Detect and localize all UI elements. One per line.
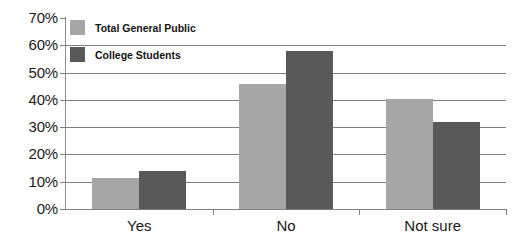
legend-color-swatch bbox=[70, 20, 85, 35]
bar bbox=[386, 99, 433, 210]
x-axis-tick-mark bbox=[359, 209, 360, 215]
bar bbox=[139, 171, 186, 209]
x-axis-tick-mark bbox=[213, 209, 214, 215]
y-axis-tick-mark bbox=[60, 209, 66, 210]
x-axis-category-label: Yes bbox=[66, 217, 213, 235]
bar bbox=[286, 51, 333, 209]
y-axis: 0%10%20%30%40%50%60%70% bbox=[0, 0, 58, 240]
bar bbox=[433, 122, 480, 209]
y-axis-tick-mark bbox=[60, 18, 66, 19]
legend-label: College Students bbox=[95, 49, 181, 61]
x-axis-line bbox=[65, 209, 506, 210]
y-axis-tick-mark bbox=[60, 100, 66, 101]
bar-chart: 0%10%20%30%40%50%60%70% YesNoNot sure To… bbox=[0, 0, 524, 240]
legend-item: Total General Public bbox=[70, 14, 290, 41]
y-axis-tick-mark bbox=[60, 127, 66, 128]
legend-color-swatch bbox=[70, 47, 85, 62]
x-axis-category-label: No bbox=[213, 217, 360, 235]
chart-legend: Total General PublicCollege Students bbox=[70, 14, 290, 68]
y-axis-tick-label: 30% bbox=[2, 119, 58, 134]
x-axis-tick-mark bbox=[506, 209, 507, 215]
y-axis-tick-label: 60% bbox=[2, 37, 58, 52]
y-axis-tick-mark bbox=[60, 154, 66, 155]
legend-label: Total General Public bbox=[95, 22, 196, 34]
bar bbox=[239, 84, 286, 210]
x-axis-category-label: Not sure bbox=[359, 217, 506, 235]
y-axis-tick-label: 70% bbox=[2, 10, 58, 25]
y-axis-tick-mark bbox=[60, 73, 66, 74]
legend-item: College Students bbox=[70, 41, 290, 68]
y-axis-tick-label: 20% bbox=[2, 146, 58, 161]
bar bbox=[92, 178, 139, 209]
y-axis-tick-mark bbox=[60, 182, 66, 183]
y-axis-tick-label: 50% bbox=[2, 65, 58, 80]
y-axis-tick-label: 40% bbox=[2, 92, 58, 107]
y-axis-tick-mark bbox=[60, 45, 66, 46]
y-axis-tick-label: 0% bbox=[2, 201, 58, 216]
y-axis-tick-label: 10% bbox=[2, 174, 58, 189]
